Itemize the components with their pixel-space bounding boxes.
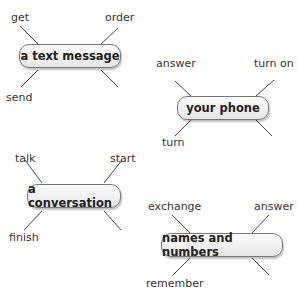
word-order: order: [105, 12, 134, 24]
word-get: get: [11, 12, 29, 24]
word-start: start: [110, 153, 136, 165]
word-finish: finish: [9, 232, 39, 244]
center-box-names-numbers: names and numbers: [161, 233, 283, 257]
word-exchange: exchange: [148, 201, 201, 213]
word-answer: answer: [156, 58, 196, 70]
center-box-conversation: a conversation: [27, 184, 121, 208]
word-turn: turn: [162, 137, 185, 149]
word-answer-2: answer: [254, 201, 294, 213]
word-turn-on: turn on: [254, 58, 294, 70]
word-talk: talk: [15, 153, 35, 165]
center-box-text-message: a text message: [19, 44, 121, 68]
word-send: send: [6, 92, 32, 104]
center-box-your-phone: your phone: [177, 96, 269, 120]
word-remember: remember: [146, 278, 204, 290]
